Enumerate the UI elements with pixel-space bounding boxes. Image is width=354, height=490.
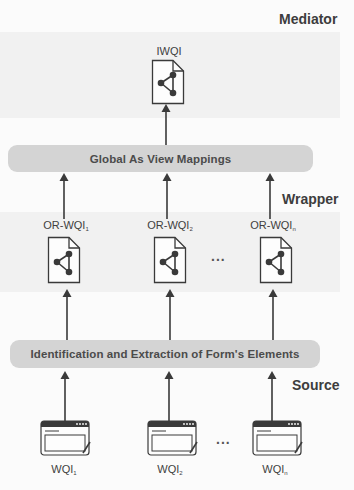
source-node-2-label: WQI2 bbox=[150, 463, 190, 476]
shared-document-icon bbox=[151, 59, 185, 105]
arrow-source-1-to-extraction bbox=[59, 371, 71, 421]
arrow-extraction-to-wrapper-2 bbox=[164, 289, 176, 340]
source-node-1 bbox=[40, 420, 92, 458]
shared-document-icon bbox=[153, 236, 187, 284]
arrow-extraction-to-wrapper-n bbox=[267, 289, 279, 340]
web-form-window-icon bbox=[147, 420, 199, 458]
source-layer-label: Source bbox=[292, 377, 339, 393]
arrow-wrapper-1-to-mappings bbox=[58, 173, 70, 219]
arrow-extraction-to-wrapper-1 bbox=[61, 289, 73, 340]
arrow-wrapper-2-to-mappings bbox=[161, 173, 173, 219]
arrow-source-n-to-extraction bbox=[266, 371, 278, 421]
arrow-wrapper-n-to-mappings bbox=[264, 173, 276, 219]
wrapper-node-n-label: OR-WQIn bbox=[245, 219, 301, 232]
source-node-n bbox=[252, 420, 304, 458]
mediator-node-label: IWQI bbox=[149, 45, 189, 57]
wrapper-node-n bbox=[259, 236, 293, 284]
mediator-node bbox=[151, 59, 185, 105]
arrow-to-mediator bbox=[160, 104, 172, 146]
source-node-n-label: WQIn bbox=[255, 463, 295, 476]
identification-extraction-bar: Identification and Extraction of Form's … bbox=[10, 340, 320, 368]
wrapper-layer-label: Wrapper bbox=[282, 191, 339, 207]
mediator-layer-label: Mediator bbox=[279, 11, 337, 27]
web-form-window-icon bbox=[252, 420, 304, 458]
wrapper-ellipsis: ... bbox=[211, 248, 226, 264]
wrapper-node-1-label: OR-WQI1 bbox=[38, 219, 94, 232]
source-node-2 bbox=[147, 420, 199, 458]
wrapper-node-2-label: OR-WQI2 bbox=[142, 219, 198, 232]
source-ellipsis: ... bbox=[216, 431, 231, 447]
wrapper-node-2 bbox=[153, 236, 187, 284]
shared-document-icon bbox=[259, 236, 293, 284]
shared-document-icon bbox=[47, 236, 81, 284]
wrapper-node-1 bbox=[47, 236, 81, 284]
arrow-source-2-to-extraction bbox=[163, 371, 175, 421]
web-form-window-icon bbox=[40, 420, 92, 458]
global-as-view-mappings-bar: Global As View Mappings bbox=[8, 145, 313, 172]
source-node-1-label: WQI1 bbox=[44, 463, 84, 476]
